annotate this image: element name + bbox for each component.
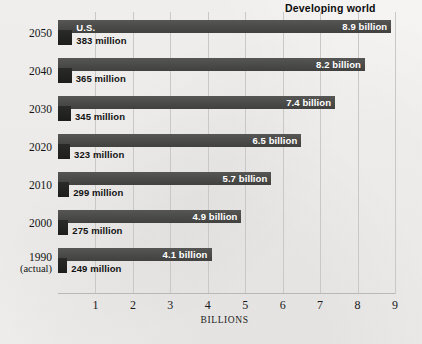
- us-value-label: 345 million: [75, 111, 125, 122]
- us-bar: [58, 258, 67, 273]
- x-axis-tick-label: 7: [317, 298, 323, 313]
- us-value-label: 299 million: [73, 187, 123, 198]
- developing-world-value-label: 4.9 billion: [193, 211, 242, 223]
- bar-row: 7.4 billion345 million: [58, 91, 395, 129]
- developing-world-value-label: 7.4 billion: [286, 97, 335, 109]
- y-axis-category-label: 1990(actual): [0, 251, 52, 275]
- developing-world-value-label: 4.1 billion: [163, 249, 212, 261]
- y-axis-category-label: 2050: [0, 27, 52, 39]
- x-axis-tick-label: 9: [392, 298, 398, 313]
- category-year: 2020: [29, 141, 52, 153]
- us-bar: [58, 144, 70, 159]
- y-axis-category-label: 2000: [0, 217, 52, 229]
- developing-world-value-label: 6.5 billion: [252, 135, 301, 147]
- category-year: 1990: [29, 251, 52, 263]
- plot-area: 123456789 BILLIONS 8.9 billionU.S.383 mi…: [58, 12, 395, 294]
- category-year: 2040: [29, 65, 52, 77]
- us-bar: [58, 182, 69, 197]
- bar-row: 8.2 billion365 million: [58, 53, 395, 91]
- developing-world-bar: [58, 20, 391, 33]
- category-year: 2050: [29, 27, 52, 39]
- y-axis-category-label: 2030: [0, 103, 52, 115]
- y-axis-category-label: 2040: [0, 65, 52, 77]
- population-bar-chart: Developing world 123456789 BILLIONS 8.9 …: [0, 0, 422, 344]
- x-axis-tick-label: 6: [280, 298, 286, 313]
- bar-row: 4.1 billion249 million: [58, 243, 395, 281]
- x-axis-tick-label: 2: [130, 298, 136, 313]
- developing-world-value-label: 8.2 billion: [316, 59, 365, 71]
- us-bar: [58, 220, 68, 235]
- y-axis-category-label: 2010: [0, 179, 52, 191]
- category-year: 2030: [29, 103, 52, 115]
- x-axis-tick-label: 8: [355, 298, 361, 313]
- x-axis-baseline: [58, 293, 395, 294]
- us-value-label: 323 million: [74, 149, 124, 160]
- y-axis-category-label: 2020: [0, 141, 52, 153]
- bar-row: 4.9 billion275 million: [58, 205, 395, 243]
- developing-world-value-label: 5.7 billion: [223, 173, 272, 185]
- x-axis-tick-label: 4: [205, 298, 211, 313]
- us-bar: [58, 30, 72, 45]
- us-value-label: 383 million: [76, 35, 126, 46]
- us-series-annotation: U.S.: [76, 22, 95, 33]
- us-value-label: 249 million: [71, 263, 121, 274]
- category-sublabel: (actual): [0, 263, 52, 275]
- developing-world-value-label: 8.9 billion: [342, 21, 391, 33]
- x-axis-tick-label: 5: [242, 298, 248, 313]
- category-year: 2010: [29, 179, 52, 191]
- bar-row: 5.7 billion299 million: [58, 167, 395, 205]
- x-axis-title: BILLIONS: [201, 315, 249, 325]
- us-value-label: 365 million: [76, 73, 126, 84]
- us-bar: [58, 68, 72, 83]
- x-axis-tick-label: 3: [167, 298, 173, 313]
- us-bar: [58, 106, 71, 121]
- x-axis-tick-label: 1: [92, 298, 98, 313]
- bar-row: 6.5 billion323 million: [58, 129, 395, 167]
- gridline: [395, 12, 396, 294]
- bar-row: 8.9 billionU.S.383 million: [58, 15, 395, 53]
- category-year: 2000: [29, 217, 52, 229]
- us-value-label: 275 million: [72, 225, 122, 236]
